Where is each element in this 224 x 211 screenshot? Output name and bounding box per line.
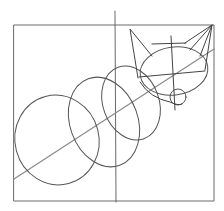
- diagonal-guideline: [14, 49, 214, 179]
- frame: [14, 11, 214, 202]
- right-ear: [185, 25, 212, 70]
- head-top-line: [152, 43, 186, 44]
- fox-construction-sketch: [0, 0, 224, 211]
- head-details: [130, 25, 212, 110]
- left-ear: [130, 29, 152, 78]
- rear-circle: [5, 86, 109, 195]
- vertical-center-line: [115, 11, 116, 202]
- outer-rectangle: [14, 25, 214, 201]
